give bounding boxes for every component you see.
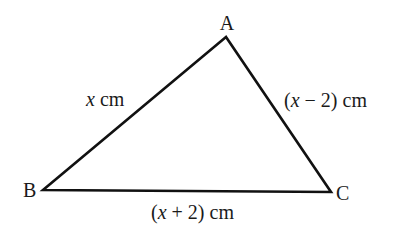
vertex-label-c: C	[336, 182, 349, 204]
triangle-svg: A B C x cm (x − 2) cm (x + 2) cm	[0, 0, 408, 237]
side-label-ac: (x − 2) cm	[284, 89, 367, 112]
vertex-label-b: B	[23, 179, 36, 201]
side-label-bc: (x + 2) cm	[151, 201, 234, 224]
side-label-ab: x cm	[85, 88, 125, 110]
vertex-label-a: A	[220, 12, 235, 34]
triangle-abc	[43, 37, 331, 192]
triangle-diagram: A B C x cm (x − 2) cm (x + 2) cm	[0, 0, 408, 237]
